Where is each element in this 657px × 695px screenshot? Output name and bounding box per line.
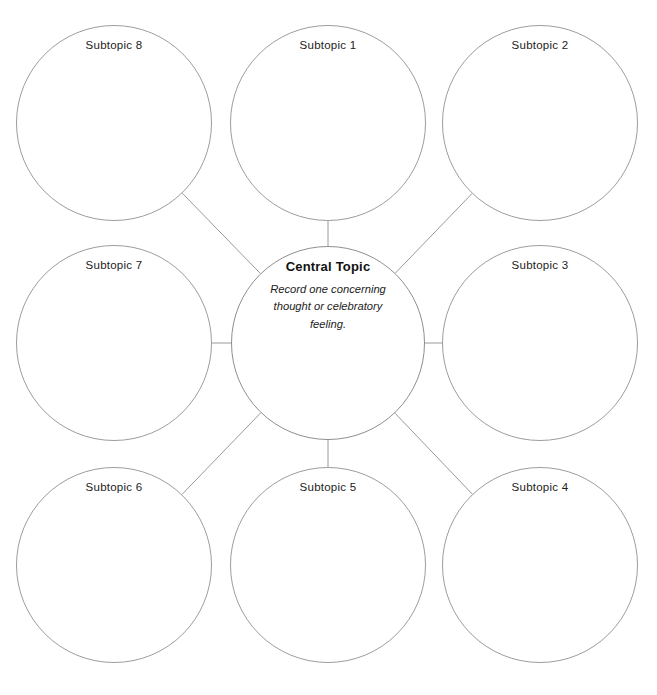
node-label: Subtopic 4 (443, 481, 637, 495)
node-subtopic-3[interactable]: Subtopic 3 (442, 245, 638, 441)
node-label: Subtopic 5 (231, 481, 425, 495)
node-label: Subtopic 7 (17, 259, 211, 273)
node-label: Subtopic 3 (443, 259, 637, 273)
node-label: Subtopic 8 (17, 39, 211, 53)
node-subtopic-6[interactable]: Subtopic 6 (16, 467, 212, 663)
central-topic-description: Record one concerning thought or celebra… (254, 281, 402, 333)
node-subtopic-8[interactable]: Subtopic 8 (16, 25, 212, 221)
node-label: Subtopic 2 (443, 39, 637, 53)
node-subtopic-1[interactable]: Subtopic 1 (230, 25, 426, 221)
node-label: Subtopic 1 (231, 39, 425, 53)
node-subtopic-2[interactable]: Subtopic 2 (442, 25, 638, 221)
node-subtopic-4[interactable]: Subtopic 4 (442, 467, 638, 663)
node-label: Subtopic 6 (17, 481, 211, 495)
mind-map-canvas: Subtopic 8 Subtopic 1 Subtopic 2 Subtopi… (0, 0, 657, 695)
node-subtopic-5[interactable]: Subtopic 5 (230, 467, 426, 663)
node-central-topic[interactable]: Central Topic Record one concerning thou… (231, 246, 425, 440)
central-topic-title: Central Topic (232, 259, 424, 274)
node-subtopic-7[interactable]: Subtopic 7 (16, 245, 212, 441)
